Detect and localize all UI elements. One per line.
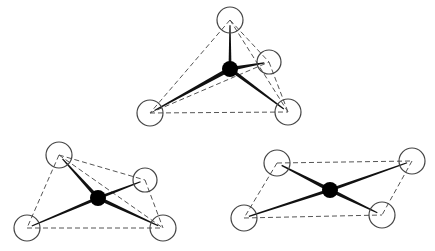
ligand-atom [14,215,40,241]
ligand-atom [257,50,281,74]
central-atom [322,182,338,198]
dashed-edge [150,62,269,113]
ligand-atom [231,205,257,231]
bond-line [32,197,99,227]
ligand-atom [133,168,157,192]
central-atom [222,61,238,77]
ligand-atom [275,99,301,125]
ligand-atom [399,148,425,174]
dashed-edge [277,161,412,163]
ligand-atom [369,202,395,228]
bond-line [249,189,331,217]
tetrahedral-figure [137,7,301,126]
ligand-atom [217,7,243,33]
ligand-atom [46,142,72,168]
ligand-atom [150,215,176,241]
bond-line [97,196,158,226]
seesaw-figure [14,142,176,241]
molecular-geometry-diagram [0,0,435,251]
square-planar-figure [231,148,425,231]
bond-line [329,162,407,191]
bond-line [229,68,284,110]
diagram-svg [0,0,435,251]
dashed-edge [150,112,288,113]
central-atom [90,190,106,206]
dashed-edge [244,215,382,218]
ligand-atom [137,100,163,126]
bond-line [154,67,231,111]
dashed-edge [150,20,230,113]
ligand-atom [264,150,290,176]
